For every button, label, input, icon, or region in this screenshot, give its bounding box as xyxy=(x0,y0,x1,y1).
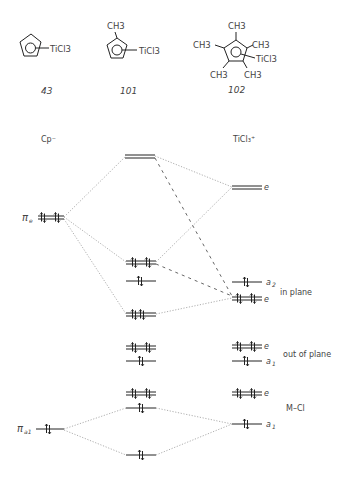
ticl3-label: TiCl3 xyxy=(49,44,71,54)
complex-levels xyxy=(125,155,156,455)
in-plane-label: in plane xyxy=(280,288,312,297)
ch3-label: CH3 xyxy=(244,70,262,80)
compound-102: CH3 CH3 CH3 TiCl3 CH3 CH3 102 xyxy=(193,21,277,95)
sym-e-label: e xyxy=(264,183,269,192)
compound-101: CH3 TiCl3 101 xyxy=(107,21,160,96)
pi-a1-label: π xyxy=(17,423,24,434)
sym-a1-subscript: 1 xyxy=(272,423,276,430)
sym-e-label: e xyxy=(264,342,269,351)
compound-number-43: 43 xyxy=(41,86,53,96)
compound-number-102: 102 xyxy=(228,85,245,95)
ch3-label: CH3 xyxy=(193,40,211,50)
symmetry-labels: e a 2 e e a 1 e a 1 xyxy=(264,183,276,430)
compound-43: TiCl3 43 xyxy=(20,34,71,96)
pi-e-label: π xyxy=(22,212,29,223)
ch3-label: CH3 xyxy=(228,21,246,31)
cp-header: Cp⁻ xyxy=(41,135,56,144)
compound-number-101: 101 xyxy=(120,86,137,96)
complex-electrons xyxy=(131,258,151,461)
correlation-dashed-lines xyxy=(155,158,232,296)
sym-a2-label: a xyxy=(266,278,271,287)
ch3-label: CH3 xyxy=(252,40,270,50)
sym-a1-label: a xyxy=(266,357,271,366)
sym-e-label: e xyxy=(264,389,269,398)
ticl3-header: TiCl₃⁺ xyxy=(232,135,255,144)
m-cl-label: M–Cl xyxy=(286,404,305,413)
ch3-label: CH3 xyxy=(107,21,125,31)
ticl3-levels xyxy=(232,186,262,424)
out-of-plane-label: out of plane xyxy=(283,350,331,359)
level-pi-e: π e xyxy=(22,212,64,224)
sym-e-label: e xyxy=(264,295,269,304)
sym-a1-label: a xyxy=(266,420,271,429)
sym-a2-subscript: 2 xyxy=(272,281,276,288)
pi-a1-subscript: a1 xyxy=(24,428,32,435)
correlation-lines xyxy=(64,156,232,455)
level-pi-a1: π a1 xyxy=(17,423,64,435)
sym-a1-subscript: 1 xyxy=(272,360,276,367)
ticl3-label: TiCl3 xyxy=(138,46,160,56)
pi-e-subscript: e xyxy=(29,217,33,224)
ticl3-label: TiCl3 xyxy=(255,54,277,64)
ch3-label: CH3 xyxy=(210,70,228,80)
mo-diagram: TiCl3 43 CH3 TiCl3 101 CH3 CH3 CH3 TiCl3… xyxy=(0,0,351,478)
